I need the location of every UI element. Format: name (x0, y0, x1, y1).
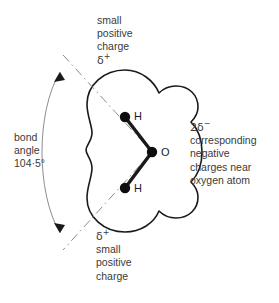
annotation-right: 2δ− corresponding negative charges near … (190, 121, 257, 187)
atom-hydrogen-top (120, 112, 130, 122)
delta-sign-bottom: + (103, 228, 110, 237)
atom-label-hydrogen-top: H (134, 110, 142, 122)
bond-angle-value: 104·5° (14, 157, 45, 170)
bond-angle-line2: angle (14, 144, 45, 157)
annotation-bottom-line3: charge (96, 270, 132, 283)
atom-oxygen (147, 147, 157, 157)
electron-cloud-outline (86, 70, 202, 232)
atom-label-hydrogen-bottom: H (134, 182, 142, 194)
annotation-top-line2: positive (97, 27, 133, 40)
atom-hydrogen-bottom (120, 183, 130, 193)
annotation-top-line3: charge (97, 40, 133, 53)
annotation-right-line1: corresponding (190, 134, 257, 147)
annotation-right-line4: oxygen atom (190, 174, 257, 187)
annotation-bottom: δ+ small positive charge (96, 230, 132, 283)
delta-glyph-bottom: δ (96, 230, 103, 243)
delta-sign-top: + (104, 52, 111, 61)
annotation-bond-angle: bond angle 104·5° (14, 131, 45, 171)
annotation-right-charge-symbol: 2δ− (190, 121, 257, 134)
atom-label-oxygen: O (161, 146, 170, 158)
bond-angle-arrow-bottom (54, 223, 65, 233)
annotation-bottom-charge-symbol: δ+ (96, 230, 132, 243)
annotation-right-line2: negative (190, 147, 257, 160)
water-polarity-figure: H O H small positive charge δ+ bond angl… (0, 0, 279, 303)
annotation-bottom-line1: small (96, 243, 132, 256)
bond-angle-line1: bond (14, 131, 45, 144)
annotation-top: small positive charge δ+ (97, 14, 133, 67)
annotation-top-charge-symbol: δ+ (97, 54, 133, 67)
delta-glyph-top: δ (97, 54, 104, 67)
annotation-top-line1: small (97, 14, 133, 27)
bond-angle-arrow-top (54, 72, 65, 82)
delta-sign-right: − (204, 119, 211, 128)
annotation-right-line3: charges near (190, 161, 257, 174)
annotation-bottom-line2: positive (96, 256, 132, 269)
delta-glyph-right: 2δ (190, 121, 204, 134)
